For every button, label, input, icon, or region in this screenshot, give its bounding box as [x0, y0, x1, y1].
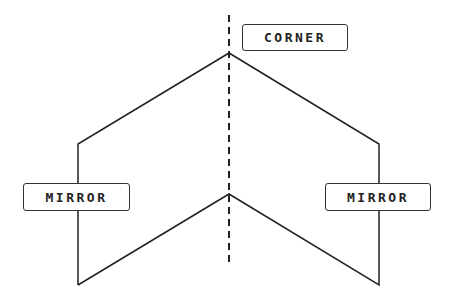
corner-label: CORNER [242, 24, 348, 51]
mirror-left-label: MIRROR [23, 183, 130, 211]
mirror-right-label: MIRROR [325, 183, 431, 211]
mirror-corner-diagram [0, 0, 452, 306]
